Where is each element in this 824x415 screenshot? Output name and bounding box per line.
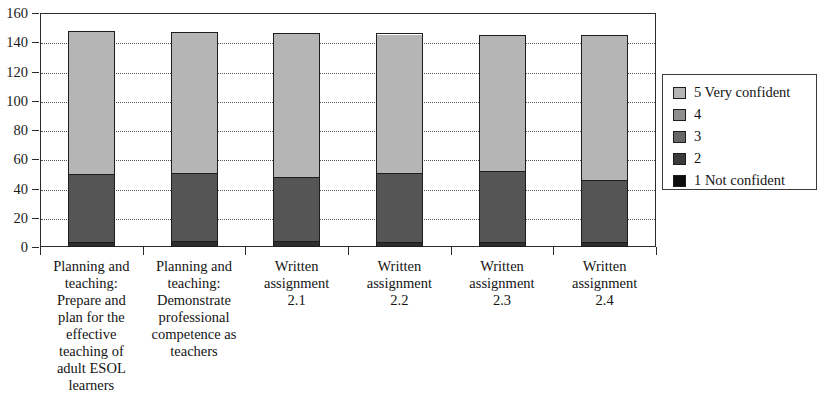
x-axis-category-label-line: professional [143,309,246,326]
x-axis-category-label-line: 2.2 [348,292,451,309]
legend-item-label: 3 [694,129,701,144]
bar-stack [376,33,423,247]
bar-segment [172,174,217,242]
bar-segment [377,174,422,244]
x-axis-category-label-line: Written [451,258,554,275]
y-axis-tick-mark [32,218,39,219]
legend-item: 3 [673,126,816,147]
y-axis-tick-mark [32,42,39,43]
bar-segment [480,36,525,172]
bar-stack [68,31,115,247]
x-axis-category-label-line: assignment [451,275,554,292]
x-axis-category-label-line: 2.4 [553,292,656,309]
x-axis-category-label-line: 2.1 [245,292,348,309]
bars-layer [40,13,656,247]
y-axis-tick-label: 80 [14,123,29,138]
x-axis-category-label-line: plan for the [40,309,143,326]
bar-segment [582,36,627,181]
x-axis-tick-mark [656,247,657,255]
x-axis-category-label-line: teaching of [40,343,143,360]
legend-item: 5 Very confident [673,82,816,103]
y-axis-tick-label: 60 [14,152,29,167]
y-axis-tick-mark [32,72,39,73]
bar-segment [274,34,319,177]
bar-segment [480,172,525,243]
x-axis-category-label-line: Planning and [40,258,143,275]
x-axis-category-label-line: 2.3 [451,292,554,309]
bar-segment [274,178,319,242]
bar-segment [582,243,627,246]
legend-item-label: 4 [694,107,701,122]
y-axis-tick-label: 40 [14,181,29,196]
stacked-bar-chart: 160140120100806040200 Planning andteachi… [0,0,824,415]
bar-stack [581,35,628,247]
x-axis-category-label-line: Written [245,258,348,275]
legend-item-label: 1 Not confident [694,173,785,188]
x-axis-category-label: Writtenassignment2.2 [348,258,451,309]
legend-item: 4 [673,104,816,125]
x-axis-tick-mark [451,247,452,255]
bar-stack [273,33,320,247]
x-axis-category-label-line: Planning and [143,258,246,275]
y-axis-tick-mark [32,159,39,160]
bar-segment [480,243,525,246]
y-axis: 160140120100806040200 [0,0,40,260]
x-axis-category-label-line: Prepare and [40,292,143,309]
x-axis-category-label-line: teachers [143,343,246,360]
bar-segment [274,242,319,246]
x-axis-category-label-line: teaching: [40,275,143,292]
x-axis-category-label: Planning andteaching:Demonstrateprofessi… [143,258,246,360]
legend-swatch-icon [673,153,686,165]
bar-stack [479,35,526,247]
legend-swatch-icon [673,175,686,187]
x-axis-tick-mark [245,247,246,255]
x-axis-tick-mark [348,247,349,255]
x-axis-tick-mark [40,247,41,255]
legend-swatch-icon [673,131,686,143]
x-axis-category-label: Writtenassignment2.1 [245,258,348,309]
bar-segment [172,242,217,246]
y-axis-tick-mark [32,247,39,248]
legend-item: 2 [673,148,816,169]
bar-segment [69,32,114,175]
x-axis-category-label-line: Written [553,258,656,275]
y-axis-tick-label: 20 [14,211,29,226]
x-axis-category-label: Writtenassignment2.3 [451,258,554,309]
y-axis-tick-label: 160 [6,6,28,21]
legend-swatch-icon [673,87,686,99]
y-axis-tick-label: 100 [6,94,28,109]
y-axis-tick-label: 120 [6,64,28,79]
x-axis-category-label-line: adult ESOL [40,360,143,377]
x-axis-category-label-line: Written [348,258,451,275]
x-axis-category-label-line: assignment [245,275,348,292]
x-axis-category-label: Writtenassignment2.4 [553,258,656,309]
x-axis-category-label-line: learners [40,377,143,394]
y-axis-tick-mark [32,189,39,190]
x-axis-category-label-line: assignment [348,275,451,292]
chart-legend: 5 Very confident4321 Not confident [662,74,817,190]
x-axis-tick-mark [143,247,144,255]
legend-item: 1 Not confident [673,170,816,191]
legend-swatch-icon [673,109,686,121]
x-axis-category-label: Planning andteaching:Prepare andplan for… [40,258,143,394]
x-axis-tick-mark [553,247,554,255]
legend-item-label: 5 Very confident [694,85,790,100]
x-axis-category-label-line: teaching: [143,275,246,292]
bar-segment [69,175,114,243]
x-axis-category-label-line: effective [40,326,143,343]
x-axis-category-label-line: competence as [143,326,246,343]
legend-item-label: 2 [694,151,701,166]
y-axis-tick-label: 140 [6,35,28,50]
x-axis-category-label-line: Demonstrate [143,292,246,309]
y-axis-tick-mark [32,130,39,131]
y-axis-tick-label: 0 [21,240,28,255]
bar-segment [377,35,422,174]
y-axis-tick-mark [32,101,39,102]
y-axis-tick-mark [32,13,39,14]
bar-segment [69,243,114,246]
bar-segment [377,243,422,246]
bar-segment [172,33,217,174]
x-axis-category-label-line: assignment [553,275,656,292]
bar-stack [171,32,218,247]
bar-segment [582,181,627,243]
